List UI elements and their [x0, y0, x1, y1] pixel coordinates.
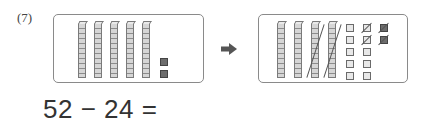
tens-rod [294, 23, 302, 78]
tens-rod [126, 23, 134, 78]
tens-rod [78, 23, 86, 78]
base-ten-blocks-after [258, 14, 408, 83]
right-arrow-icon [221, 43, 237, 55]
tens-rod [94, 23, 102, 78]
ones-unit [346, 72, 354, 80]
problem-number-label: (7) [17, 10, 32, 26]
tens-rod [110, 23, 118, 78]
ones-unit [363, 48, 371, 56]
ones-unit [346, 24, 354, 32]
tens-rod [277, 23, 285, 78]
tens-rod [142, 23, 150, 78]
ones-unit [346, 48, 354, 56]
subtraction-equation: 52 − 24 = [43, 94, 157, 125]
ones-unit [363, 72, 371, 80]
ones-unit [346, 36, 354, 44]
ones-unit [346, 60, 354, 68]
ones-unit [160, 58, 168, 66]
ones-unit [363, 60, 371, 68]
ones-unit [160, 70, 168, 78]
base-ten-blocks-before [53, 14, 204, 83]
